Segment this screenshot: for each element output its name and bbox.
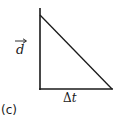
diagonal-line — [40, 15, 112, 89]
time-symbol: t — [72, 91, 77, 105]
panel-label: (c) — [1, 104, 17, 116]
displacement-time-diagram: d Δt (c) — [0, 0, 120, 119]
triangle-graph — [0, 0, 120, 119]
delta-symbol: Δ — [63, 91, 72, 105]
time-interval-label: Δt — [63, 92, 77, 104]
displacement-label: d — [16, 43, 24, 56]
